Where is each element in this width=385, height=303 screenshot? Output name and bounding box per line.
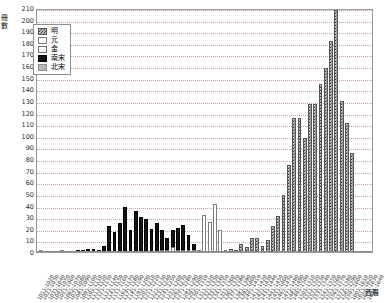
bar-stack[interactable] (129, 230, 133, 252)
bar-series-container (37, 10, 372, 252)
bar-ming[interactable] (324, 68, 328, 252)
bar-stack[interactable] (134, 211, 138, 252)
bar-ming[interactable] (308, 104, 312, 252)
x-axis-title: 西曆 (365, 289, 379, 297)
legend-item-yuan[interactable]: 元 (38, 37, 65, 44)
bar-stack[interactable] (144, 219, 148, 252)
bar-stack[interactable] (176, 228, 180, 252)
bar-stack[interactable] (187, 235, 191, 252)
bar-stack[interactable] (150, 229, 154, 252)
bar-ming[interactable] (282, 195, 286, 252)
bar-yuan[interactable] (208, 222, 212, 252)
bar-ming[interactable] (319, 84, 323, 252)
bar-ming[interactable] (313, 104, 317, 252)
legend-item-ming[interactable]: 明 (38, 28, 65, 35)
bar-stack[interactable] (345, 123, 349, 252)
bar-stack[interactable] (155, 223, 159, 252)
bar-ming[interactable] (340, 101, 344, 252)
bar-yuan[interactable] (213, 204, 217, 252)
bar-stack[interactable] (282, 195, 286, 252)
bar-ming[interactable] (350, 153, 354, 252)
bar-nansong[interactable] (155, 223, 159, 252)
bar-ming[interactable] (292, 118, 296, 252)
bar-ming[interactable] (255, 238, 259, 252)
bar-stack[interactable] (113, 232, 117, 252)
bar-nansong[interactable] (144, 219, 148, 252)
y-axis-tick-label: 90 (12, 145, 34, 152)
legend-label: 金 (51, 46, 58, 53)
plot-area (36, 9, 373, 253)
bar-ming[interactable] (250, 238, 254, 252)
bar-slot[interactable] (365, 10, 370, 252)
y-axis-tick-label: 120 (12, 111, 34, 118)
bar-ming[interactable] (298, 118, 302, 252)
y-axis-tick-label: 130 (12, 99, 34, 106)
bar-stack[interactable] (218, 230, 222, 252)
legend-item-jin[interactable]: 金 (38, 46, 65, 53)
bar-ming[interactable] (334, 10, 338, 252)
y-axis-tick-label: 60 (12, 180, 34, 187)
legend-label: 元 (51, 37, 58, 44)
bar-stack[interactable] (208, 222, 212, 252)
bar-stack[interactable] (250, 238, 254, 252)
bar-stack[interactable] (319, 84, 323, 252)
bar-yuan[interactable] (202, 215, 206, 252)
bar-nansong[interactable] (107, 226, 111, 252)
bar-stack[interactable] (181, 225, 185, 252)
bar-stack[interactable] (298, 118, 302, 252)
bar-nansong[interactable] (187, 235, 191, 250)
bar-stack[interactable] (139, 217, 143, 252)
y-axis-tick-label: 200 (12, 18, 34, 25)
bar-stack[interactable] (329, 41, 333, 252)
legend-item-nansong[interactable]: 南宋 (38, 55, 65, 62)
bar-stack[interactable] (160, 230, 164, 252)
bar-stack[interactable] (308, 104, 312, 252)
legend-swatch-yuan (38, 37, 47, 44)
bar-stack[interactable] (202, 215, 206, 252)
bar-nansong[interactable] (134, 211, 138, 252)
bar-stack[interactable] (303, 138, 307, 252)
bar-stack[interactable] (287, 165, 291, 252)
bar-stack[interactable] (165, 238, 169, 252)
bar-nansong[interactable] (150, 229, 154, 252)
x-axis-line (37, 251, 372, 252)
y-axis-tick-label: 50 (12, 192, 34, 199)
legend-swatch-nansong (38, 55, 47, 62)
bar-nansong[interactable] (113, 232, 117, 252)
bar-yuan[interactable] (218, 230, 222, 252)
bar-ming[interactable] (345, 123, 349, 252)
bar-stack[interactable] (350, 153, 354, 252)
bar-nansong[interactable] (176, 228, 180, 250)
legend: 明元金南宋北宋 (33, 24, 71, 75)
legend-item-beisong[interactable]: 北宋 (38, 64, 65, 71)
bar-stack[interactable] (213, 204, 217, 252)
bar-stack[interactable] (334, 10, 338, 252)
bar-nansong[interactable] (139, 217, 143, 252)
bar-ming[interactable] (303, 138, 307, 252)
bar-stack[interactable] (292, 118, 296, 252)
bar-nansong[interactable] (181, 225, 185, 249)
bar-nansong[interactable] (165, 238, 169, 250)
bar-stack[interactable] (276, 216, 280, 252)
bar-nansong[interactable] (171, 230, 175, 247)
bar-stack[interactable] (107, 226, 111, 252)
bar-stack[interactable] (123, 207, 127, 252)
legend-swatch-ming (38, 28, 47, 35)
bar-stack[interactable] (271, 226, 275, 252)
bar-ming[interactable] (271, 226, 275, 252)
bar-nansong[interactable] (123, 207, 127, 252)
bar-ming[interactable] (287, 165, 291, 252)
bar-nansong[interactable] (129, 230, 133, 252)
bar-stack[interactable] (171, 230, 175, 252)
bar-ming[interactable] (329, 41, 333, 252)
bar-ming[interactable] (276, 216, 280, 252)
y-axis-tick-label: 210 (12, 6, 34, 13)
bar-stack[interactable] (324, 68, 328, 252)
bar-stack[interactable] (118, 223, 122, 252)
bar-nansong[interactable] (160, 230, 164, 250)
bar-stack[interactable] (313, 104, 317, 252)
bar-stack[interactable] (255, 238, 259, 252)
bar-nansong[interactable] (118, 223, 122, 252)
bar-stack[interactable] (340, 101, 344, 252)
